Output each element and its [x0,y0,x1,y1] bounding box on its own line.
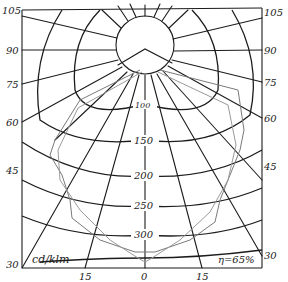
left-angle-label: 105 [2,5,21,16]
unit-label: cd/klm [32,253,70,266]
right-angle-label: 90 [264,45,277,56]
right-angle-label: 75 [264,77,277,88]
right-angle-label: 45 [263,161,277,172]
polar-intensity-diagram: 105 90 75 60 45 30 105 90 75 60 45 30 15… [0,0,288,282]
left-angle-labels: 105 90 75 60 45 30 [2,5,21,270]
right-angle-label: 60 [264,113,277,124]
left-angle-label: 45 [5,165,19,176]
center-chevron [118,49,172,65]
efficiency-label: η=65% [218,254,255,265]
right-angle-label: 30 [264,250,277,261]
bottom-angle-label: 15 [196,271,209,282]
left-angle-label: 30 [6,259,19,270]
intensity-label: 250 [133,200,154,211]
intensity-label: 100 [135,101,150,110]
center-circle [116,16,174,74]
intensity-label: 150 [134,135,154,146]
bottom-angle-label: 0 [141,271,148,282]
left-angle-label: 60 [6,117,19,128]
left-angle-label: 90 [6,45,19,56]
intensity-label: 300 [134,229,154,240]
right-angle-labels: 105 90 75 60 45 30 [263,7,283,261]
right-angle-label: 105 [264,7,283,18]
bottom-angle-labels: 15 0 15 [79,271,209,282]
left-angle-label: 75 [6,79,19,90]
intensity-label: 200 [133,170,154,181]
bottom-angle-label: 15 [79,271,92,282]
